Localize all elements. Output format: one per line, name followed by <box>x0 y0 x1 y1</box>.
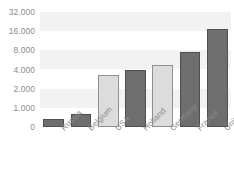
y-axis-tick-label: 32.000 <box>9 8 35 16</box>
x-axis: RussiaBelgiumUSAHollandGermanyFranceUnit… <box>40 127 234 180</box>
background-band <box>40 31 231 50</box>
y-axis-tick-label: 8.000 <box>14 46 35 54</box>
y-axis-tick-label: 1.000 <box>14 104 35 112</box>
y-axis-tick-label: 4.000 <box>14 66 35 74</box>
background-band <box>40 50 231 69</box>
y-axis: 01.0002.0004.0008.00016.00032.000 <box>0 0 38 140</box>
y-axis-tick-label: 2.000 <box>14 85 35 93</box>
y-axis-tick-label: 0 <box>30 123 35 131</box>
y-axis-tick-label: 16.000 <box>9 27 35 35</box>
bar-chart: 01.0002.0004.0008.00016.00032.000 Russia… <box>0 0 234 180</box>
plot-area <box>40 12 231 127</box>
background-band <box>40 12 231 31</box>
